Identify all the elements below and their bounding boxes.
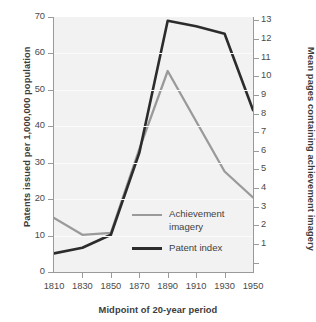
y-right-tick-label: 8 [261, 108, 287, 118]
y-right-tickmark [254, 132, 259, 133]
y-left-tickmark [48, 17, 53, 18]
y-right-tick-label: 4 [261, 182, 287, 192]
y-right-tick-label: 2 [261, 219, 287, 229]
y-right-tickmark [254, 244, 259, 245]
x-tick-label: 1930 [210, 281, 240, 291]
x-tickmark [139, 273, 140, 278]
x-axis-title: Midpoint of 20-year period [0, 305, 316, 315]
y-right-tickmark [254, 20, 259, 21]
y-right-tickmark [254, 207, 259, 208]
y-right-tickmark [254, 188, 259, 189]
y-left-tickmark [48, 126, 53, 127]
y-left-tickmark [48, 163, 53, 164]
x-tickmark [168, 273, 169, 278]
y-left-tick-label: 20 [19, 193, 45, 203]
x-tick-label: 1850 [96, 281, 126, 291]
y-right-tick-label: 10 [261, 70, 287, 80]
y-left-tickmark [48, 53, 53, 54]
y-right-tickmark [254, 58, 259, 59]
y-right-tickmark [254, 169, 259, 170]
legend-label-achievement-imagery: Achievement imagery [169, 208, 243, 233]
y-axis-left-spine [53, 17, 54, 273]
y-right-tickmark [254, 263, 259, 264]
y-left-tick-label: 50 [19, 84, 45, 94]
y-right-tick-label: 13 [261, 14, 287, 24]
y-left-tickmark [48, 199, 53, 200]
x-tick-label: 1910 [181, 281, 211, 291]
y-left-tickmark [48, 272, 53, 273]
y-left-tick-label: 70 [19, 11, 45, 21]
x-tickmark [82, 273, 83, 278]
gridline [54, 90, 253, 91]
legend-item-patent-index: Patent index [132, 242, 243, 255]
y-right-tick-label: 5 [261, 163, 287, 173]
legend-label-patent-index: Patent index [169, 242, 222, 255]
x-tick-label: 1870 [124, 281, 154, 291]
gridline [54, 53, 253, 54]
y-right-tick-label: 9 [261, 89, 287, 99]
chart-figure: Patents issued per 1,000,000 population … [0, 0, 316, 322]
y-left-tick-label: 30 [19, 157, 45, 167]
y-left-tick-label: 0 [19, 266, 45, 276]
x-tickmark [111, 273, 112, 278]
y-right-tickmark [254, 76, 259, 77]
y-right-tick-label: 12 [261, 33, 287, 43]
y-left-tick-label: 40 [19, 120, 45, 130]
x-tick-label: 1810 [39, 281, 69, 291]
y-right-tickmark [254, 225, 259, 226]
y-right-tickmark [254, 95, 259, 96]
x-tickmark [196, 273, 197, 278]
legend-swatch-achievement-imagery [132, 214, 162, 216]
gridline [54, 199, 253, 200]
chart-legend: Achievement imagery Patent index [132, 208, 243, 264]
x-tickmark [225, 273, 226, 278]
y-left-tick-label: 60 [19, 47, 45, 57]
gridline [54, 126, 253, 127]
y-right-tick-label: 7 [261, 126, 287, 136]
y-right-tickmark [254, 39, 259, 40]
y-right-tickmark [254, 114, 259, 115]
y-axis-right-title: Mean pages containing achievement imager… [306, 47, 316, 237]
y-right-tick-label: 11 [261, 52, 287, 62]
y-right-tickmark [254, 151, 259, 152]
x-tick-label: 1830 [67, 281, 97, 291]
y-right-tick-label: 6 [261, 145, 287, 155]
y-right-tick-label: 3 [261, 201, 287, 211]
x-tick-label: 1950 [238, 281, 268, 291]
legend-item-achievement-imagery: Achievement imagery [132, 208, 243, 233]
y-right-tick-label: 1 [261, 238, 287, 248]
legend-swatch-patent-index [132, 247, 162, 250]
y-left-tickmark [48, 236, 53, 237]
y-left-tickmark [48, 90, 53, 91]
y-left-tick-label: 10 [19, 230, 45, 240]
x-tick-label: 1890 [153, 281, 183, 291]
gridline [54, 163, 253, 164]
y-axis-right-spine [253, 17, 254, 273]
